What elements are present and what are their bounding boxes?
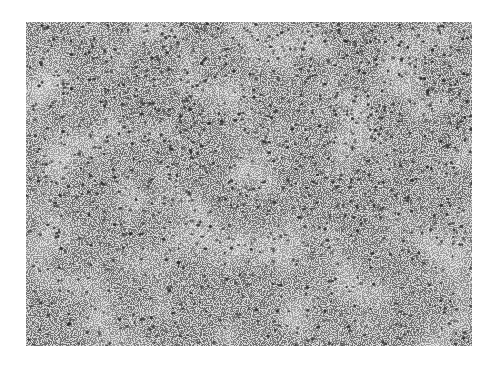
tissue-texture [26,22,472,346]
histology-micrograph: Grayscale photomicrograph of densely cel… [26,22,472,346]
